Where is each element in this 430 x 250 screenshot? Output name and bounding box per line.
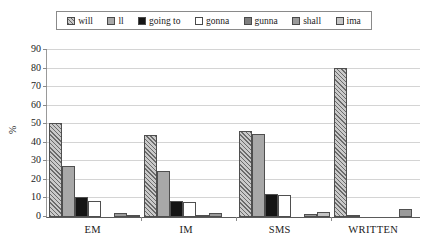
bar-group-em — [47, 50, 142, 217]
legend-label-ll: ll — [118, 16, 123, 26]
x-tick-mark — [141, 217, 142, 221]
bar-im-gunna — [196, 215, 209, 217]
y-tick-label: 10 — [31, 192, 41, 202]
legend-label-ima: ima — [347, 16, 361, 26]
x-tick-mark — [331, 217, 332, 221]
y-tick-label: 80 — [31, 63, 41, 73]
bar-im-goingto — [170, 201, 183, 217]
y-tick-label: 60 — [31, 100, 41, 110]
y-tick-label: 40 — [31, 137, 41, 147]
y-tick-label: 30 — [31, 155, 41, 165]
legend-swatch-gonna — [195, 17, 203, 25]
bar-sms-ima — [317, 212, 330, 217]
x-label-written: WRITTEN — [327, 224, 421, 236]
y-tick-label: 90 — [31, 44, 41, 54]
bar-em-gonna — [88, 201, 101, 217]
bar-em-goingto — [75, 197, 88, 217]
legend-item-gonna[interactable]: gonna — [195, 16, 229, 26]
legend-item-will[interactable]: will — [67, 16, 93, 26]
bar-em-shall — [114, 213, 127, 217]
plot-area: 0102030405060708090 — [46, 50, 420, 218]
legend-swatch-ima — [336, 17, 344, 25]
bar-written-will — [334, 68, 347, 217]
legend-label-shall: shall — [303, 16, 321, 26]
legend-swatch-ll — [107, 17, 115, 25]
bar-im-shall — [209, 213, 222, 217]
legend-item-shall[interactable]: shall — [292, 16, 321, 26]
legend-item-ll[interactable]: ll — [107, 16, 123, 26]
x-label-im: IM — [140, 224, 234, 236]
legend-label-will: will — [78, 16, 93, 26]
bar-em-will — [49, 123, 62, 217]
bar-im-gonna — [183, 202, 196, 217]
bar-groups — [47, 50, 420, 217]
x-tick-mark — [236, 217, 237, 221]
legend-label-gunna: gunna — [255, 16, 278, 26]
legend-swatch-goingto — [138, 17, 146, 25]
y-axis-title: % — [8, 126, 18, 134]
legend-item-ima[interactable]: ima — [336, 16, 361, 26]
y-tick-label: 0 — [36, 211, 41, 221]
bar-written-shall — [399, 209, 412, 217]
bar-sms-shall — [304, 214, 317, 217]
bar-group-written — [332, 50, 427, 217]
y-tick-label: 20 — [31, 174, 41, 184]
bar-group-im — [142, 50, 237, 217]
bar-sms-gonna — [278, 195, 291, 217]
legend-label-gonna: gonna — [206, 16, 229, 26]
bar-em-ima — [127, 215, 140, 217]
legend-swatch-will — [67, 17, 75, 25]
bar-sms-will — [239, 131, 252, 217]
legend-item-gunna[interactable]: gunna — [244, 16, 278, 26]
bar-sms-goingto — [265, 194, 278, 217]
bar-im-will — [144, 135, 157, 217]
bar-group-sms — [237, 50, 332, 217]
x-axis-labels: EMIMSMSWRITTEN — [46, 224, 420, 236]
bar-sms-ll — [252, 134, 265, 217]
bar-em-ll — [62, 166, 75, 217]
y-tick-label: 50 — [31, 118, 41, 128]
y-tick-label: 70 — [31, 81, 41, 91]
legend-item-goingto[interactable]: going to — [138, 16, 180, 26]
bar-written-ll — [347, 215, 360, 217]
x-label-sms: SMS — [233, 224, 327, 236]
legend-swatch-gunna — [244, 17, 252, 25]
chart-legend: willllgoing togonnagunnashallima — [56, 11, 372, 30]
legend-label-goingto: going to — [149, 16, 180, 26]
bar-im-ll — [157, 171, 170, 217]
x-label-em: EM — [46, 224, 140, 236]
legend-swatch-shall — [292, 17, 300, 25]
